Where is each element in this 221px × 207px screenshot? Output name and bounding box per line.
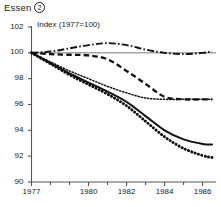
y-axis-tick-label: 96 <box>4 99 24 108</box>
chart-container: Essen 2 Index (1977=100) 909294969810010… <box>0 0 221 207</box>
x-axis-tick-label: 1982 <box>112 187 142 196</box>
series-dashed <box>32 53 213 100</box>
y-axis-tick-label: 102 <box>4 22 24 31</box>
series-dotted-thick <box>32 53 213 158</box>
x-axis-tick-label: 1977 <box>17 187 47 196</box>
y-axis-tick-label: 94 <box>4 125 24 134</box>
x-axis-tick-label: 1984 <box>150 187 180 196</box>
x-axis-tick-label: 1980 <box>74 187 104 196</box>
y-axis-tick-label: 100 <box>4 47 24 56</box>
plot-area <box>0 0 221 207</box>
y-axis-tick-label: 90 <box>4 177 24 186</box>
y-axis-tick-label: 92 <box>4 151 24 160</box>
x-axis-tick-label: 1986 <box>188 187 218 196</box>
series-dotted-thin <box>32 53 213 100</box>
y-axis-tick-label: 98 <box>4 73 24 82</box>
